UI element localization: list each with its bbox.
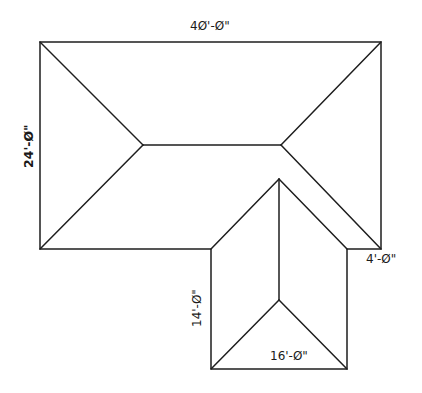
wing-hip-bottom-left bbox=[211, 300, 279, 369]
wing-hip-right bbox=[279, 179, 347, 249]
wing-hip-left bbox=[211, 179, 279, 249]
hip-line-bottom-left bbox=[40, 145, 143, 249]
hip-line-top-left bbox=[40, 42, 143, 145]
dimension-left-height: 24'-Ø" bbox=[21, 124, 36, 168]
dimension-top-width: 4Ø'-Ø" bbox=[190, 19, 230, 33]
dimension-right-offset: 4'-Ø" bbox=[366, 252, 396, 266]
outline bbox=[40, 42, 381, 369]
roof-plan-drawing: 4Ø'-Ø" 24'-Ø" 4'-Ø" 14'-Ø" 16'-Ø" bbox=[0, 0, 422, 393]
dimension-wing-width: 16'-Ø" bbox=[270, 349, 308, 363]
hip-line-top-right bbox=[281, 42, 381, 145]
dimension-wing-height: 14'-Ø" bbox=[190, 289, 204, 327]
